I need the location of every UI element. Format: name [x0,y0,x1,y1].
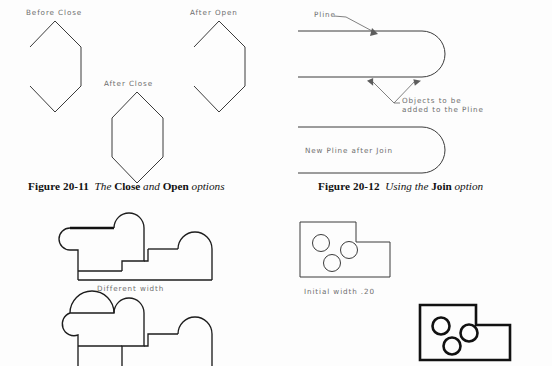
circle-hole-3 [444,338,461,355]
caption-text-after: option [452,180,483,192]
shape-pline-original [298,31,445,77]
shape-new-pline-after-join [298,127,445,173]
shape-uniform-width-polyline [62,291,212,366]
circle-hole-2 [341,242,358,259]
circle-hole-1 [313,235,330,252]
figure-different-width-drawing [0,205,276,366]
caption-figure-20-12: Figure 20-12 Using the Join option [318,180,483,192]
caption-figure-20-11: Figure 20-11 The Close and Open options [28,180,225,192]
shape-open-hexagon-before-close [30,21,81,112]
shape-plate-thin [300,222,390,277]
document-page: Before Close After Close After Open Fig [0,0,552,366]
caption-text-before: The [95,180,115,192]
shape-closed-hexagon-after-close [112,92,163,183]
circle-hole-3 [324,255,341,272]
shape-open-hexagon-after-open [194,21,245,112]
figure-initial-width: Initial width .20 [276,205,552,366]
figure-different-width: Different width [0,205,276,366]
shape-variable-width-polyline [59,213,212,280]
figure-20-12-drawing [276,0,552,175]
figure-20-11: Before Close After Close After Open Fig [0,0,276,200]
caption-text-middle: and [140,180,162,192]
caption-keyword-join: Join [431,180,452,192]
circle-hole-2 [461,325,478,342]
shape-plate-heavy [420,305,510,360]
circle-hole-1 [433,318,450,335]
figure-20-11-drawing [0,0,276,175]
caption-text-before: Using the [385,180,431,192]
leader-objects-to-be-added [367,76,421,103]
leader-pline [334,16,378,36]
caption-keyword-open: Open [163,180,189,192]
caption-number: Figure 20-12 [318,180,380,192]
caption-text-after: options [189,180,225,192]
caption-keyword-close: Close [114,180,140,192]
caption-number: Figure 20-11 [28,180,89,192]
figure-initial-width-drawing [276,205,552,366]
figure-20-12: Pline Objects to be added to the Pline N… [276,0,552,200]
